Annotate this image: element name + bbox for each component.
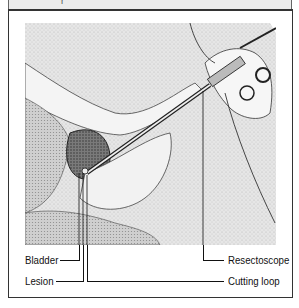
cutting-loop-leader-vertical <box>87 245 88 282</box>
resectoscope-leader-horizontal <box>203 260 224 261</box>
bladder-leader-vertical <box>79 245 80 261</box>
bladder-leader-horizontal <box>60 260 80 261</box>
surgical-illustration <box>25 23 276 245</box>
label-cutting-loop: Cutting loop <box>228 275 280 287</box>
label-resectoscope: Resectoscope <box>228 254 289 266</box>
lesion-leader-vertical <box>83 245 84 282</box>
resectoscope-leader-vertical <box>203 245 204 261</box>
header-partial-text: r <box>61 0 64 6</box>
label-lesion: Lesion <box>25 275 54 287</box>
header-band: r <box>8 0 292 9</box>
label-bladder: Bladder <box>25 254 58 266</box>
cutting-loop-leader-horizontal <box>87 281 224 282</box>
lesion-leader-horizontal <box>56 281 84 282</box>
